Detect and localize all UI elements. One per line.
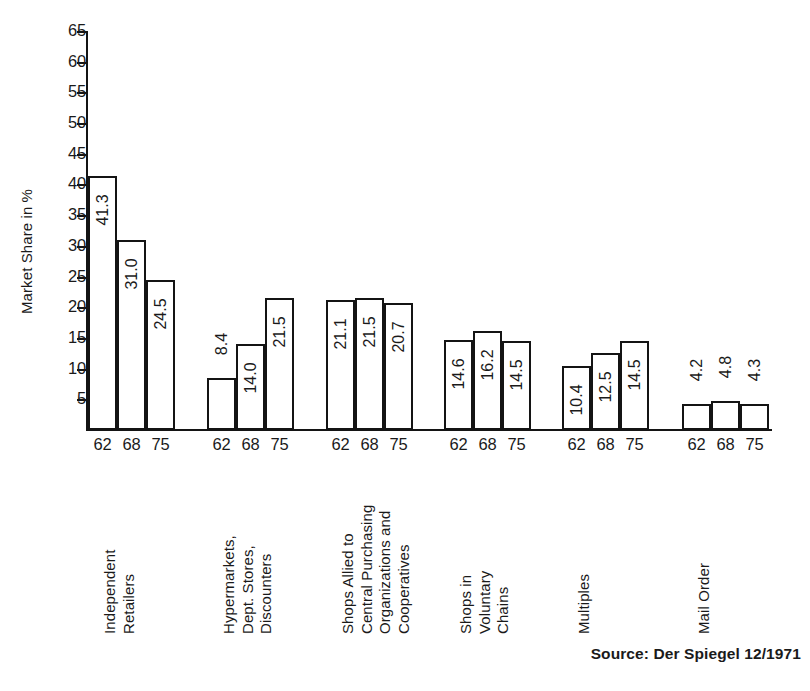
bar-value-label: 41.3 [95,184,111,236]
x-axis-year-label: 75 [146,436,175,453]
x-axis-year-label: 68 [591,436,620,453]
x-axis-year-label: 75 [265,436,294,453]
bar-value-label: 14.5 [509,349,525,401]
y-axis-tick-label: 55 [52,83,86,100]
bar [711,401,740,430]
y-axis-tick-label: 50 [52,114,86,131]
bar-value-label: 4.3 [747,344,763,396]
y-axis-tick-label: 5 [52,390,86,407]
bar-value-label: 16.2 [480,339,496,391]
bar [682,404,711,430]
bar-value-label: 24.5 [153,288,169,340]
x-axis-year-label: 62 [444,436,473,453]
x-axis-year-label: 62 [682,436,711,453]
bar-value-label: 10.4 [569,374,585,426]
x-axis-year-label: 62 [88,436,117,453]
bar-value-label: 4.8 [718,341,734,393]
y-axis-tick-label: 10 [52,360,86,377]
x-axis-line [86,429,772,431]
bar-value-label: 4.2 [689,344,705,396]
category-label: Multiples [575,574,594,634]
bar-value-label: 31.0 [124,248,140,300]
x-axis-year-label: 62 [562,436,591,453]
y-axis-tick-label: 40 [52,175,86,192]
bar-value-label: 21.5 [362,306,378,358]
bar-value-label: 12.5 [598,361,614,413]
bar-value-label: 21.5 [272,306,288,358]
x-axis-year-label: 68 [117,436,146,453]
x-axis-year-label: 62 [207,436,236,453]
category-label: Mail Order [695,563,714,634]
y-axis-tick-label: 45 [52,145,86,162]
bar-value-label: 20.7 [391,311,407,363]
x-axis-year-label: 68 [473,436,502,453]
y-axis-tick-label: 25 [52,268,86,285]
y-axis-title: Market Share in % [18,152,35,352]
y-axis-tick-label: 60 [52,53,86,70]
bar-value-label: 8.4 [214,318,230,370]
source-note: Source: Der Spiegel 12/1971 [591,645,801,663]
category-label: Hypermarkets, Dept. Stores, Discounters [220,535,276,634]
x-axis-year-label: 75 [620,436,649,453]
x-axis-year-label: 68 [236,436,265,453]
bar-value-label: 14.6 [451,348,467,400]
category-label: Shops in Voluntary Chains [457,571,513,634]
y-axis-tick-label: 65 [52,22,86,39]
bar-chart: Market Share in % 6560555045403530252015… [0,0,810,691]
x-axis-year-label: 62 [326,436,355,453]
category-label: Shops Allied to Central Purchasing Organ… [339,505,413,634]
category-label: Independent Retailers [101,549,138,634]
bar [207,378,236,430]
y-axis-tick-label: 30 [52,237,86,254]
bar [740,404,769,430]
bar-value-label: 21.1 [333,308,349,360]
y-axis-tick-label: 20 [52,298,86,315]
bar-value-label: 14.0 [243,352,259,404]
x-axis-year-label: 68 [711,436,740,453]
x-axis-year-label: 68 [355,436,384,453]
x-axis-year-label: 75 [740,436,769,453]
x-axis-year-label: 75 [384,436,413,453]
y-axis-tick-label: 35 [52,206,86,223]
y-axis-tick-label: 15 [52,329,86,346]
x-axis-year-label: 75 [502,436,531,453]
bar-value-label: 14.5 [627,349,643,401]
